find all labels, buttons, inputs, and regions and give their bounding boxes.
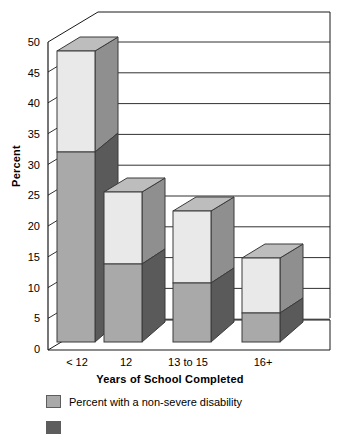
legend-item-non-severe: Percent with a non-severe disability <box>46 395 242 408</box>
legend-label-non-severe: Percent with a non-severe disability <box>69 396 242 408</box>
legend-swatch-non-severe <box>46 395 61 408</box>
x-tick-13to15: 13 to 15 <box>152 356 224 368</box>
x-tick-16plus: 16+ <box>232 356 294 368</box>
x-tick-12: 12 <box>95 356 157 368</box>
legend-item-severe <box>46 421 69 434</box>
x-axis-title: Years of School Completed <box>0 373 340 385</box>
legend-swatch-severe <box>46 421 61 434</box>
